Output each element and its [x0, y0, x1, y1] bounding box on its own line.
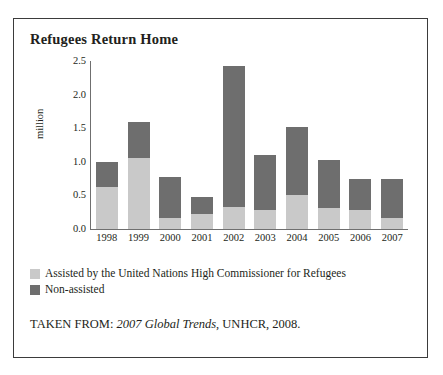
legend-swatch-icon [30, 285, 40, 295]
bar-group-2000 [159, 177, 181, 229]
bar-segment [286, 195, 308, 229]
y-axis-tick: 0.0 [73, 224, 86, 235]
bar-group-2006 [349, 179, 371, 229]
figure-caption: TAKEN FROM: 2007 Global Trends, UNHCR, 2… [30, 317, 300, 332]
bar-segment [128, 122, 150, 158]
bar-segment [381, 179, 403, 218]
bar-group-2007 [381, 179, 403, 229]
bar-segment [96, 187, 118, 229]
y-axis-tick: 0.5 [73, 190, 86, 201]
bar-group-2002 [223, 66, 245, 229]
bar-group-2005 [318, 160, 340, 229]
bar-segment [191, 197, 213, 214]
chart-legend: Assisted by the United Nations High Comm… [30, 267, 346, 299]
legend-swatch-icon [30, 269, 40, 279]
x-axis-line [90, 229, 408, 230]
legend-item: Non-assisted [30, 283, 346, 297]
legend-label: Non-assisted [45, 283, 104, 297]
bar-group-2001 [191, 197, 213, 229]
bar-group-1998 [96, 162, 118, 229]
bar-group-2003 [254, 155, 276, 229]
bar-segment [128, 158, 150, 229]
bar-segment [191, 214, 213, 229]
bar-group-2004 [286, 127, 308, 229]
bar-segment [159, 218, 181, 229]
y-axis-tick: 1.5 [73, 123, 86, 134]
x-axis-tick: 2007 [372, 232, 412, 243]
page-title: Refugees Return Home [30, 31, 178, 48]
bar-segment [254, 155, 276, 210]
bar-series-container [91, 61, 408, 229]
bar-segment [318, 160, 340, 208]
legend-item: Assisted by the United Nations High Comm… [30, 267, 346, 281]
y-axis-tick-labels: 0.00.51.01.52.02.5 [52, 61, 86, 229]
bar-segment [349, 210, 371, 229]
bar-segment [223, 66, 245, 207]
y-axis-tick: 2.0 [73, 89, 86, 100]
bar-segment [318, 208, 340, 230]
caption-source-title: 2007 Global Trends [117, 317, 217, 331]
bar-segment [381, 218, 403, 229]
bar-segment [223, 207, 245, 229]
bar-segment [349, 179, 371, 211]
caption-suffix: , UNHCR, 2008. [216, 317, 300, 331]
bar-segment [96, 162, 118, 187]
bar-group-1999 [128, 121, 150, 229]
bar-segment [159, 177, 181, 218]
legend-label: Assisted by the United Nations High Comm… [45, 267, 346, 281]
bar-segment [254, 210, 276, 229]
y-axis-tick: 2.5 [73, 56, 86, 67]
y-axis-tick: 1.0 [73, 157, 86, 168]
y-axis-label: million [34, 109, 45, 139]
x-axis-tick-labels: 1998199920002001200220032004200520062007 [91, 232, 408, 250]
caption-prefix: TAKEN FROM: [30, 317, 117, 331]
chart-plot-area: million 0.00.51.01.52.02.5 1998199920002… [30, 61, 412, 253]
figure-frame: Refugees Return Home million 0.00.51.01.… [13, 18, 428, 358]
bar-segment [286, 127, 308, 196]
